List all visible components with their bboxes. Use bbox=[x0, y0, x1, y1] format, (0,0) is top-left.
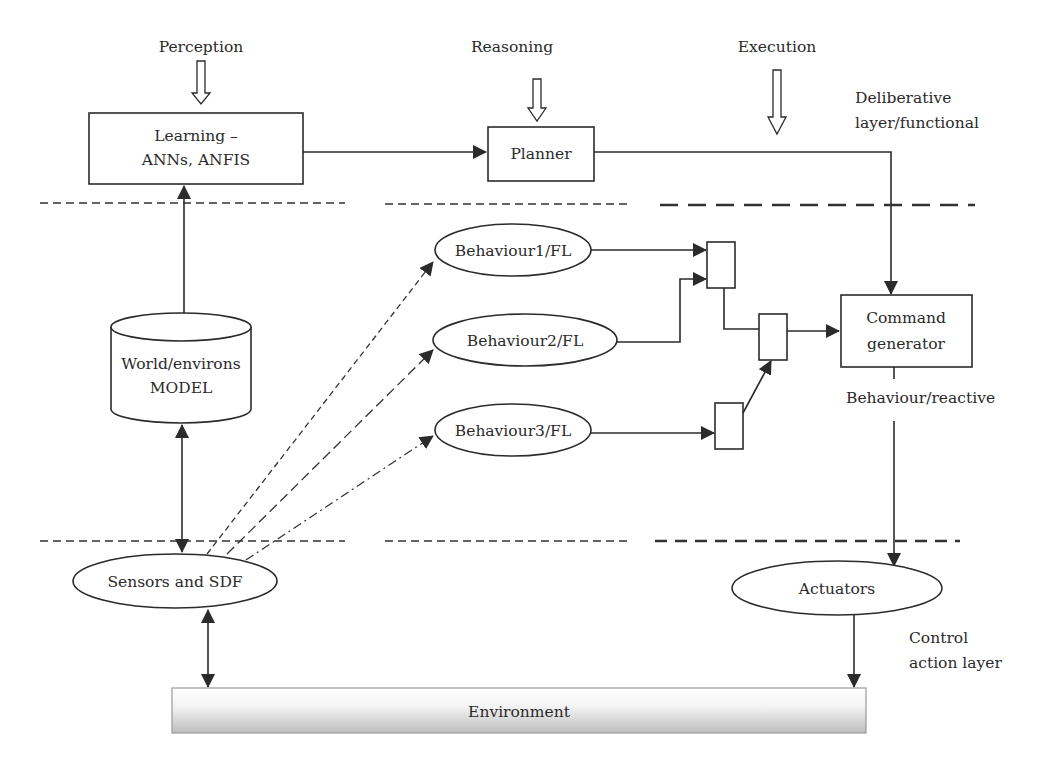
command-generator-label-line2: generator bbox=[867, 335, 945, 353]
edge-arbiter3-to-arbiter2 bbox=[743, 361, 771, 413]
edge-sensors-to-behaviour2 bbox=[227, 350, 433, 554]
execution-label: Execution bbox=[738, 38, 816, 56]
behaviour-reactive-layer-label: Behaviour/reactive bbox=[846, 389, 995, 407]
learning-box bbox=[89, 113, 303, 184]
edge-arbiter1-to-arbiter2 bbox=[724, 288, 759, 329]
behaviour2-label: Behaviour2/FL bbox=[467, 332, 583, 350]
reasoning-label: Reasoning bbox=[471, 38, 553, 56]
world-model-label-line1: World/environs bbox=[121, 355, 240, 373]
arbiter-3 bbox=[715, 403, 743, 449]
deliberative-layer-label-line2: layer/functional bbox=[855, 114, 979, 132]
perception-label: Perception bbox=[159, 38, 244, 56]
sensors-label: Sensors and SDF bbox=[107, 573, 242, 591]
arbiter-2 bbox=[759, 314, 787, 360]
planner-label: Planner bbox=[510, 145, 572, 163]
edge-planner-to-command bbox=[594, 152, 891, 294]
learning-label-line1: Learning – bbox=[154, 127, 238, 145]
control-action-layer-label-line2: action layer bbox=[909, 654, 1002, 672]
actuators-label: Actuators bbox=[798, 580, 875, 598]
behaviour3-label: Behaviour3/FL bbox=[455, 422, 571, 440]
arbiter-1 bbox=[707, 242, 735, 288]
perception-hollow-arrow-icon bbox=[192, 61, 210, 104]
execution-hollow-arrow-icon bbox=[768, 70, 786, 134]
environment-label: Environment bbox=[468, 703, 571, 721]
reasoning-hollow-arrow-icon bbox=[528, 79, 546, 121]
deliberative-layer-label-line1: Deliberative bbox=[855, 89, 951, 107]
control-action-layer-label-line1: Control bbox=[909, 629, 968, 647]
command-generator-box bbox=[841, 295, 972, 367]
learning-label-line2: ANNs, ANFIS bbox=[141, 151, 250, 169]
architecture-diagram: Perception Reasoning Execution Deliberat… bbox=[0, 0, 1042, 761]
behaviour1-label: Behaviour1/FL bbox=[455, 242, 571, 260]
world-model-label-line2: MODEL bbox=[150, 379, 213, 397]
command-generator-label-line1: Command bbox=[866, 309, 946, 327]
edge-behaviour2-to-arbiter1 bbox=[617, 279, 706, 342]
